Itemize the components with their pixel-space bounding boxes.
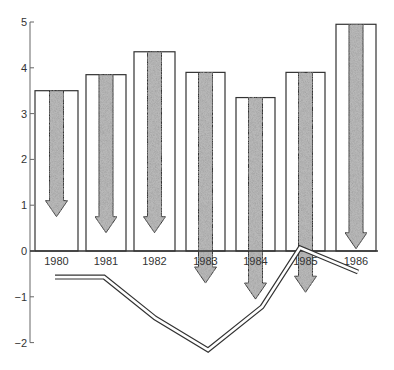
x-label-1980: 1980 <box>44 255 68 267</box>
y-axis: 543210−1−2 <box>14 16 34 349</box>
x-label-1982: 1982 <box>142 255 166 267</box>
y-tick-label: 0 <box>21 245 27 257</box>
y-tick-label: −1 <box>14 291 27 303</box>
y-tick-label: 3 <box>21 108 27 120</box>
y-tick-label: 1 <box>21 199 27 211</box>
y-tick-label: 2 <box>21 153 27 165</box>
x-label-1984: 1984 <box>243 255 267 267</box>
bar-1980 <box>35 91 78 251</box>
y-tick-label: −2 <box>14 337 27 349</box>
x-label-1983: 1983 <box>193 255 217 267</box>
bar-1986 <box>336 24 376 251</box>
chart: 543210−1−2 1980198119821983198419851986 <box>0 0 394 370</box>
bar-1982 <box>134 52 175 251</box>
y-tick-label: 5 <box>21 16 27 28</box>
y-tick-label: 4 <box>21 62 27 74</box>
bar-1984 <box>236 98 275 300</box>
x-label-1981: 1981 <box>94 255 118 267</box>
bar-1981 <box>86 75 126 251</box>
